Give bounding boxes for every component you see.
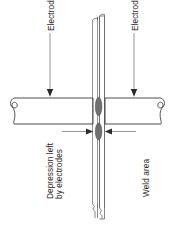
label-depression-line2: by electrodes: [55, 143, 64, 199]
leader-electrode-left: [47, 33, 53, 97]
label-depression-by-electrodes: Depression left by electrodes: [46, 143, 65, 199]
leader-depression: [62, 129, 93, 135]
upper-weld-nugget: [95, 97, 102, 115]
label-electrode-right: Electrode: [131, 0, 141, 31]
label-weld-area: Weld area: [142, 159, 152, 197]
front-workpiece-sheet: [100, 14, 105, 219]
leader-weld-area: [105, 129, 136, 135]
spot-welding-diagram: Electrode Electrode Depression left by e…: [0, 0, 176, 232]
lower-weld-nugget: [95, 123, 102, 140]
label-depression-line1: Depression left: [46, 143, 55, 199]
leader-electrode-right: [131, 33, 137, 97]
label-electrode-left: Electrode: [47, 0, 57, 31]
right-electrode-body: [105, 98, 165, 124]
diagram-canvas: [0, 0, 176, 232]
left-electrode-body: [10, 98, 93, 124]
